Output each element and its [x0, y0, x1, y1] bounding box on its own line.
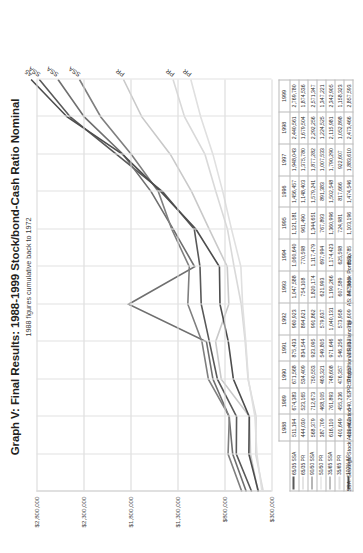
table-cell: 2,857,593 [344, 80, 353, 112]
table-cell: 1,456,457 [289, 175, 298, 207]
table-cell: 1,174,423 [325, 239, 334, 271]
table-cell: 1,148,403 [298, 175, 307, 207]
table-cell: 748,608 [325, 361, 334, 388]
table-row: 90/50 SSA568,379712,673750,553923,095991… [307, 80, 316, 491]
table-cell: 444,030 [298, 414, 307, 441]
table-cell: 463,321 [316, 361, 325, 388]
y-axis-tick-label: $2,300,000 [80, 496, 87, 527]
gridline-vertical [36, 415, 271, 416]
table-cell: 511,194 [289, 414, 298, 441]
legend-ssa: SSA: Strategic Stock Accumulation [345, 407, 351, 491]
table-cell: 1,040,131 [325, 302, 334, 334]
table-column-header: 1993 [279, 271, 290, 303]
table-column-header: 1991 [279, 334, 290, 361]
table-cell: 674,383 [289, 387, 298, 414]
table-row-header: 65/35 PR [298, 441, 307, 491]
table-cell: 387,709 [316, 414, 325, 441]
table-cell: 2,292,256 [307, 111, 316, 143]
table-column-header: 1995 [279, 207, 290, 239]
table-cell: 2,342,905 [325, 80, 334, 112]
gridline-vertical [36, 340, 271, 341]
gridline-vertical [36, 265, 271, 266]
series-color-swatch-icon [292, 476, 294, 489]
table-cell: 1,047,588 [289, 271, 298, 303]
table-cell: 750,553 [307, 361, 316, 388]
page-title: Graph V: Final Results: 1988-1999 Stock/… [8, 0, 20, 553]
series-name: 50/50 PR [318, 454, 323, 474]
table-cell: 712,673 [307, 387, 316, 414]
series-end-label: SSA [66, 65, 80, 78]
table-cell: 923,095 [307, 334, 316, 361]
page-subtitle: 1988 figures cumulative back to 1972 [23, 0, 32, 553]
table-cell: 2,440,561 [289, 111, 298, 143]
table-cell: 1,007,533 [316, 143, 325, 175]
series-name: 65/35 SSA [291, 451, 296, 474]
gridline-vertical [36, 453, 271, 454]
table-cell: 546,256 [335, 334, 344, 361]
gridline-vertical [36, 115, 271, 116]
table-cell: 1,347,221 [316, 80, 325, 112]
series-name: 65/35 PR [300, 454, 305, 474]
table-row: 35/65 SSA616,110761,893748,608971,6461,0… [325, 80, 334, 491]
table-cell: 1,360,996 [325, 207, 334, 239]
table-cell: 1,344,651 [307, 207, 316, 239]
table-cell: 1,679,504 [298, 111, 307, 143]
table-column-header: 1989 [279, 387, 290, 414]
table-column-header: 1999 [279, 80, 290, 112]
table-cell: 770,598 [298, 239, 307, 271]
table-column-header: 1994 [279, 239, 290, 271]
series-name: 35/65 PR [336, 454, 341, 474]
series-name: 35/65 SSA [327, 451, 332, 474]
table-cell: 616,110 [325, 414, 334, 441]
table-row-header: 50/50 PR [316, 441, 325, 491]
table-cell: 1,474,546 [344, 175, 353, 207]
table-row: 65/35 SSA511,194674,383671,568875,433960… [289, 80, 298, 491]
table-cell: 523,165 [298, 387, 307, 414]
table-cell: 1,579,241 [307, 175, 316, 207]
table-cell: 724,981 [335, 207, 344, 239]
y-axis-tick-label: $300,000 [268, 496, 275, 522]
table-cell: 1,877,282 [307, 143, 316, 175]
table-cell: 817,666 [335, 175, 344, 207]
gridline-vertical [36, 190, 271, 191]
gridline-vertical [36, 378, 271, 379]
gridline-horizontal [224, 79, 225, 491]
gridline-vertical [36, 490, 271, 491]
table-cell: 991,862 [307, 302, 316, 334]
table-cell: 1,158,323 [335, 80, 344, 112]
table-cell: 894,621 [298, 302, 307, 334]
table-cell: 834,544 [298, 334, 307, 361]
table-cell: 761,893 [325, 387, 334, 414]
gridline-horizontal [271, 79, 272, 491]
table-cell: 1,874,536 [298, 80, 307, 112]
legend-as: AS: All Stock Portfolio [345, 254, 351, 306]
table-cell: 1,790,290 [325, 143, 334, 175]
legend-pr: PR: Proportional Rebalancing [345, 321, 351, 392]
series-color-swatch-icon [302, 476, 304, 489]
table-cell: 455,236 [335, 387, 344, 414]
table-cell: 1,190,266 [325, 271, 334, 303]
series-color-swatch-icon [320, 476, 322, 489]
y-axis-tick-label: $1,300,000 [174, 496, 181, 527]
table-row-header: 90/50 SSA [307, 441, 316, 491]
table-cell: 2,115,981 [325, 111, 334, 143]
series-color-swatch-icon [338, 476, 340, 489]
gridline-vertical [36, 228, 271, 229]
table-cell: 549,805 [316, 334, 325, 361]
y-axis-tick-label: $800,000 [221, 496, 228, 522]
table-cell: 767,893 [316, 207, 325, 239]
table-cell: 2,571,347 [307, 80, 316, 112]
table-cell: 1,224,525 [316, 111, 325, 143]
gridline-vertical [36, 303, 271, 304]
table-row-header: 65/35 SSA [289, 441, 298, 491]
table-cell: 1,948,043 [289, 143, 298, 175]
y-axis-tick-label: $2,800,000 [33, 496, 40, 527]
chart-page: Graph V: Final Results: 1988-1999 Stock/… [0, 0, 363, 553]
table-body: 65/35 SSA511,194674,383671,568875,433960… [289, 80, 353, 491]
chart-canvas: $300,000$800,000$1,300,000$1,800,000$2,3… [36, 79, 271, 491]
table-cell: 1,121,181 [289, 207, 298, 239]
table-cell: 1,060,640 [289, 239, 298, 271]
table-cell: 754,108 [298, 271, 307, 303]
table-cell: 579,637 [316, 302, 325, 334]
chart-series-lines [36, 79, 271, 491]
